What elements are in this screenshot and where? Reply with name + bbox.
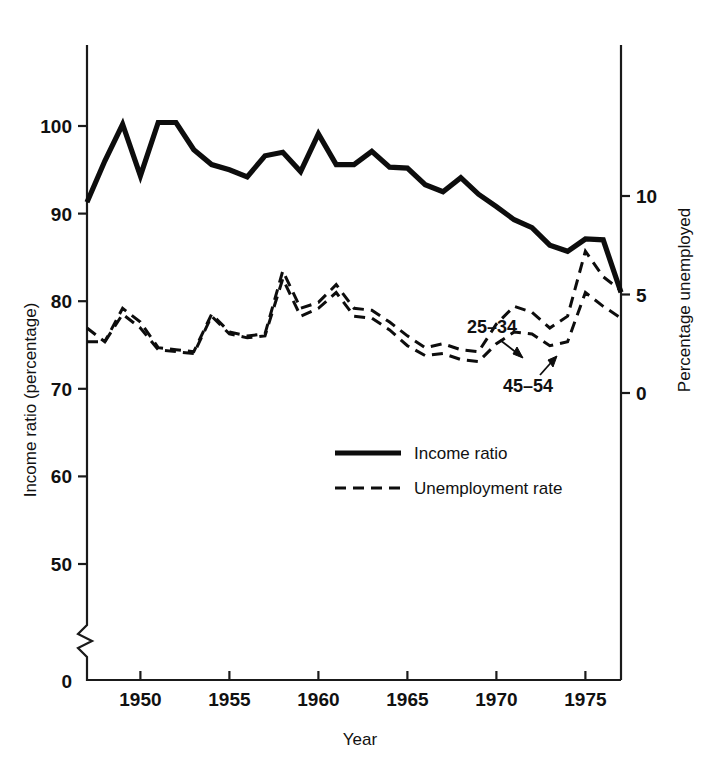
y-tick-label-100: 100 <box>40 116 72 137</box>
x-tick-label-1960: 1960 <box>297 689 339 710</box>
x-tick-label-1950: 1950 <box>119 689 161 710</box>
x-tick-label-1975: 1975 <box>564 689 607 710</box>
x-tick-label-1955: 1955 <box>208 689 251 710</box>
annotation-label-25-34: 25–34 <box>467 317 517 337</box>
y-tick-label-80: 80 <box>51 291 72 312</box>
y-tick-label-70: 70 <box>51 379 72 400</box>
legend-label-0: Income ratio <box>414 444 508 463</box>
annotation-arrowhead-25-34 <box>513 347 523 358</box>
y2-axis-title: Percentage unemployed <box>675 208 694 392</box>
y-tick-label-90: 90 <box>51 204 72 225</box>
figure-page: 5060708090100005101950195519601965197019… <box>0 0 722 775</box>
x-tick-label-1965: 1965 <box>386 689 429 710</box>
axis-titles: Income ratio (percentage)Percentage unem… <box>21 208 694 749</box>
series-line-2 <box>87 279 621 362</box>
x-tick-label-1970: 1970 <box>475 689 517 710</box>
y2-tick-label-5: 5 <box>636 285 647 306</box>
y-tick-label-50: 50 <box>51 554 72 575</box>
y2-tick-label-10: 10 <box>636 186 657 207</box>
income-unemployment-chart: 5060708090100005101950195519601965197019… <box>0 0 722 775</box>
annotation-label-45-54: 45–54 <box>503 376 553 396</box>
legend-label-1: Unemployment rate <box>414 479 562 498</box>
x-axis-title: Year <box>343 730 378 749</box>
axes: 5060708090100005101950195519601965197019… <box>40 45 657 710</box>
series-line-0 <box>87 123 621 293</box>
y-origin-label: 0 <box>61 671 72 692</box>
y-axis-title: Income ratio (percentage) <box>21 303 40 498</box>
data-series <box>87 123 621 362</box>
chart-annotations: 25–3445–54 <box>467 317 557 396</box>
chart-legend: Income ratioUnemployment rate <box>335 444 562 498</box>
y2-tick-label-0: 0 <box>636 383 647 404</box>
y-tick-label-60: 60 <box>51 466 72 487</box>
left-axis-and-baseline <box>78 45 621 680</box>
series-line-1 <box>87 251 621 351</box>
